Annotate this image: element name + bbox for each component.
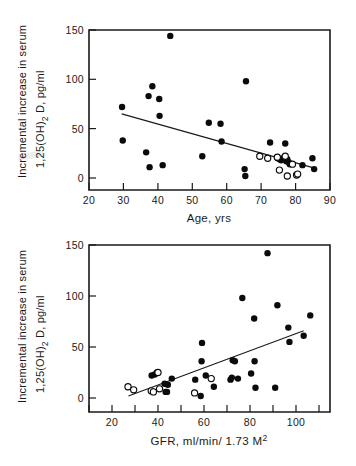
- data-point-filled: [248, 370, 254, 376]
- data-point-filled: [232, 358, 238, 364]
- y-tick-label-50: 50: [72, 123, 84, 135]
- data-point-filled: [149, 83, 155, 89]
- data-points-top: [119, 33, 318, 180]
- data-point-open: [131, 387, 137, 393]
- data-point-filled: [311, 166, 317, 172]
- data-point-filled: [251, 315, 257, 321]
- x-tick-labels-top: 20 30 40 50 60 70 80 90: [83, 194, 336, 206]
- data-point-filled: [235, 375, 241, 381]
- y-tick-label-100: 100: [66, 73, 84, 85]
- x-tick-label-100: 100: [287, 416, 305, 428]
- svg-text:1,25(OH)2 D, pg/ml: 1,25(OH)2 D, pg/ml: [34, 295, 50, 393]
- y-ticks-bottom: [89, 245, 96, 398]
- x-tick-labels-bottom: 20 40 60 80 100: [106, 416, 305, 428]
- data-point-filled: [164, 389, 170, 395]
- data-point-filled: [145, 93, 151, 99]
- data-point-filled: [169, 375, 175, 381]
- x-tick-label-60: 60: [198, 416, 210, 428]
- x-axis-label-top: Age, yrs: [187, 212, 232, 224]
- data-point-filled: [206, 120, 212, 126]
- x-tick-label-80: 80: [244, 416, 256, 428]
- x-ticks-top: [89, 183, 330, 190]
- data-point-filled: [229, 374, 235, 380]
- data-point-filled: [156, 96, 162, 102]
- x-tick-label-40: 40: [152, 194, 164, 206]
- data-point-filled: [143, 149, 149, 155]
- data-point-filled: [243, 78, 249, 84]
- y-axis-label-line1: Incremental increase in serum: [16, 250, 28, 403]
- data-point-filled: [217, 121, 223, 127]
- x-tick-label-20: 20: [83, 194, 95, 206]
- data-point-filled: [159, 162, 165, 168]
- data-point-open: [265, 155, 271, 161]
- y-tick-labels-top: 150 100 50 0: [66, 24, 84, 184]
- gfr-scatter-panel: Incremental increase in serum 1,25(OH)2 …: [0, 233, 356, 466]
- data-point-open: [282, 153, 288, 159]
- data-point-filled: [242, 173, 248, 179]
- x-tick-label-90: 90: [324, 194, 336, 206]
- data-point-filled: [274, 302, 280, 308]
- data-point-filled: [218, 138, 224, 144]
- data-point-filled: [165, 382, 171, 388]
- y-tick-label-150: 150: [66, 239, 84, 251]
- scatter-figure: Incremental increase in serum 1,25(OH)2 …: [0, 0, 356, 466]
- x-axis-label-bottom-sup: 2: [262, 433, 267, 443]
- data-point-filled: [119, 104, 125, 110]
- data-point-open: [257, 153, 263, 159]
- data-point-filled: [307, 312, 313, 318]
- y-axis-label-top: Incremental increase in serum 1,25(OH)2 …: [16, 25, 50, 178]
- x-tick-label-50: 50: [186, 194, 198, 206]
- y-tick-label-100: 100: [66, 290, 84, 302]
- data-point-filled: [211, 384, 217, 390]
- data-point-open: [274, 154, 280, 160]
- data-point-open: [155, 369, 161, 375]
- data-point-filled: [198, 393, 204, 399]
- y-tick-label-50: 50: [72, 341, 84, 353]
- data-point-filled: [267, 139, 273, 145]
- data-point-filled: [199, 153, 205, 159]
- data-points-bottom: [125, 250, 314, 399]
- data-point-filled: [282, 140, 288, 146]
- y-tick-labels-bottom: 150 100 50 0: [66, 239, 84, 404]
- y-axis-label-bottom: Incremental increase in serum 1,25(OH)2 …: [16, 250, 50, 403]
- x-tick-label-30: 30: [117, 194, 129, 206]
- data-point-filled: [286, 339, 292, 345]
- data-point-filled: [241, 166, 247, 172]
- data-point-open: [284, 173, 290, 179]
- data-point-filled: [251, 358, 257, 364]
- svg-text:1,25(OH)2 D, pg/ml: 1,25(OH)2 D, pg/ml: [34, 70, 50, 168]
- data-point-open: [276, 167, 282, 173]
- y-ticks-top: [89, 30, 96, 178]
- x-tick-label-70: 70: [255, 194, 267, 206]
- y-tick-label-0: 0: [78, 172, 84, 184]
- x-ticks-bottom: [89, 405, 319, 412]
- data-point-open: [208, 376, 214, 382]
- y-tick-label-150: 150: [66, 24, 84, 36]
- y-tick-label-0: 0: [78, 392, 84, 404]
- data-point-filled: [239, 295, 245, 301]
- data-point-filled: [192, 376, 198, 382]
- x-tick-label-20: 20: [106, 416, 118, 428]
- data-point-open: [150, 389, 156, 395]
- y-axis-label-line2-pre: 1,25(OH): [34, 346, 46, 393]
- data-point-open: [191, 390, 197, 396]
- data-point-open: [295, 171, 301, 177]
- data-point-filled: [146, 164, 152, 170]
- data-point-filled: [299, 162, 305, 168]
- x-axis-label-bottom-pre: GFR, ml/min/ 1.73 M: [151, 435, 263, 447]
- data-point-filled: [285, 324, 291, 330]
- y-axis-label-line2-pre: 1,25(OH): [34, 121, 46, 168]
- data-point-open: [289, 161, 295, 167]
- data-point-filled: [167, 33, 173, 39]
- data-point-filled: [199, 340, 205, 346]
- data-point-filled: [198, 358, 204, 364]
- data-point-filled: [309, 155, 315, 161]
- y-axis-label-line2-post: D, pg/ml: [34, 295, 46, 341]
- data-point-filled: [300, 333, 306, 339]
- data-point-filled: [156, 113, 162, 119]
- age-scatter-panel: Incremental increase in serum 1,25(OH)2 …: [0, 0, 356, 233]
- x-axis-label-bottom: GFR, ml/min/ 1.73 M2: [151, 433, 268, 447]
- data-point-filled: [272, 385, 278, 391]
- data-point-filled: [264, 250, 270, 256]
- y-axis-label-line1: Incremental increase in serum: [16, 25, 28, 178]
